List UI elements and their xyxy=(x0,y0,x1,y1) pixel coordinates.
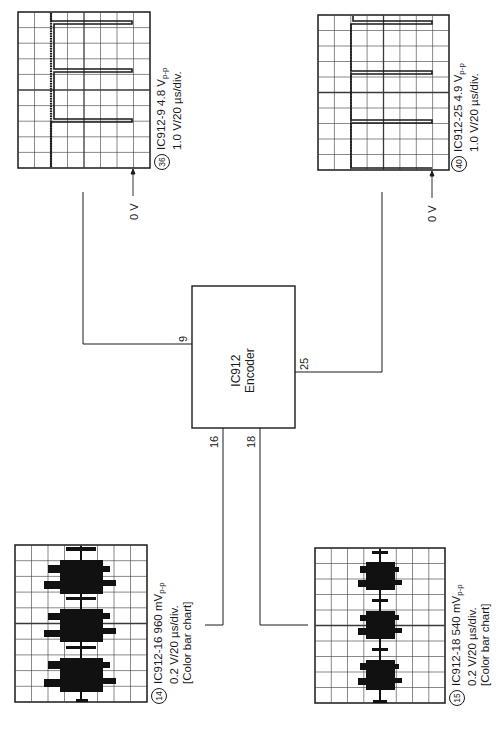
scope-36-number-badge: 36 xyxy=(154,154,170,170)
scope-15-note: [Color bar chart] xyxy=(479,584,492,706)
scope-14-number-badge: 14 xyxy=(151,688,167,704)
pin-9-label: 9 xyxy=(177,336,189,342)
pin-25-text: 25 xyxy=(298,358,310,370)
pin-18-label: 18 xyxy=(245,436,257,448)
scope-15-scale: 0.2 V/20 µs/div. xyxy=(466,584,479,706)
ground-label-36: 0 V xyxy=(128,203,140,220)
scope-36-screen xyxy=(18,12,150,168)
wires xyxy=(83,192,382,625)
ground-label-36-text: 0 V xyxy=(128,203,140,220)
scope-14-title: IC912-16 960 mV xyxy=(152,594,164,684)
pin-16-text: 16 xyxy=(208,436,220,448)
scope-14-title-sub: p-p xyxy=(157,582,166,594)
scope-15-caption: 15IC912-18 540 mVp-p 0.2 V/20 µs/div. [C… xyxy=(449,584,492,706)
scope-40-title-sub: p-p xyxy=(457,63,466,75)
ground-label-40-text: 0 V xyxy=(426,205,438,222)
scope-15-title: IC912-18 540 mV xyxy=(450,596,462,686)
pin-9-text: 9 xyxy=(177,336,189,342)
pin-16-label: 16 xyxy=(208,436,220,448)
scope-15-number-badge: 15 xyxy=(449,690,465,706)
wire-pin18 xyxy=(260,428,308,625)
scope-36-title: IC912-9 4.8 V xyxy=(155,79,167,150)
wire-pin16 xyxy=(205,428,223,625)
encoder-label-line1: IC912 xyxy=(229,348,243,393)
scope-14-caption: 14IC912-16 960 mVp-p 0.2 V/20 µs/div. [C… xyxy=(151,582,194,704)
encoder-label-line2: Encoder xyxy=(243,348,257,393)
scope-40-screen xyxy=(318,15,449,170)
ground-marker-40 xyxy=(430,171,434,198)
scope-15-title-sub: p-p xyxy=(455,584,464,596)
scope-14-note: [Color bar chart] xyxy=(181,582,194,704)
scope-40-caption: 40IC912-25 4.9 Vp-p 1.0 V/20 µs/div. xyxy=(451,63,481,172)
scope-40-number-badge: 40 xyxy=(451,156,467,172)
wire-pin25 xyxy=(295,192,382,372)
scope-36-caption: 36IC912-9 4.8 Vp-p 1.0 V/20 µs/div. xyxy=(154,67,184,170)
pin-18-text: 18 xyxy=(245,436,257,448)
pin-25-label: 25 xyxy=(298,358,310,370)
scope-40-scale: 1.0 V/20 µs/div. xyxy=(468,63,481,172)
scope-36-title-sub: p-p xyxy=(160,67,169,79)
encoder-label: IC912 Encoder xyxy=(229,348,257,393)
scope-40-title: IC912-25 4.9 V xyxy=(452,75,464,152)
ground-label-40: 0 V xyxy=(426,205,438,222)
scope-14-scale: 0.2 V/20 µs/div. xyxy=(168,582,181,704)
scope-36-scale: 1.0 V/20 µs/div. xyxy=(171,67,184,170)
ground-marker-36 xyxy=(131,169,135,196)
